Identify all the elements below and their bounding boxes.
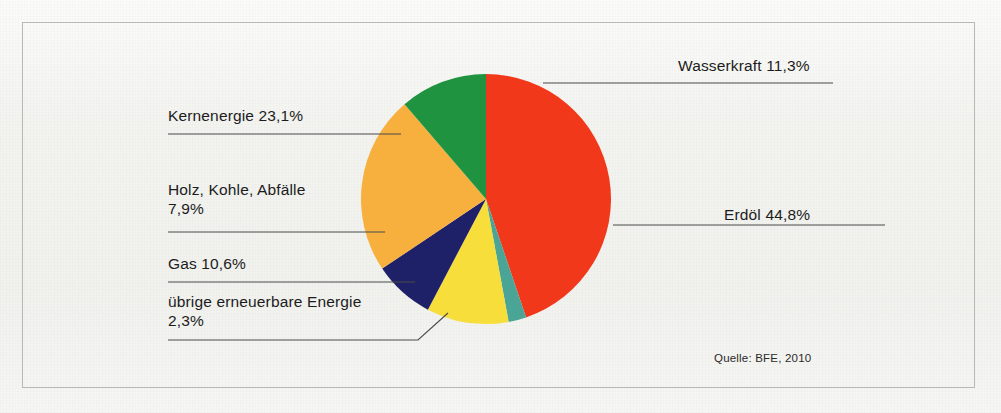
label-uebrige-line2: 2,3% [168, 312, 204, 329]
pie-chart-plot [23, 23, 974, 387]
chart-frame [22, 22, 975, 388]
label-holz-line1: Holz, Kohle, Abfälle [168, 181, 305, 198]
label-uebrige-line1: übrige erneuerbare Energie [168, 293, 361, 310]
label-gas: Gas 10,6% [168, 254, 246, 273]
label-holz-kohle-abfaelle: Holz, Kohle, Abfälle 7,9% [168, 180, 398, 218]
label-erdoel: Erdöl 44,8% [724, 205, 810, 224]
pie-slices [361, 74, 611, 324]
pie-chart-svg [23, 23, 976, 389]
label-holz-line2: 7,9% [168, 200, 204, 217]
label-wasserkraft: Wasserkraft 11,3% [678, 56, 810, 75]
label-kernenergie: Kernenergie 23,1% [168, 106, 303, 125]
label-uebrige-erneuerbare-energie: übrige erneuerbare Energie 2,3% [168, 292, 418, 330]
source-note: Quelle: BFE, 2010 [714, 352, 811, 364]
page-background: Wasserkraft 11,3% Kernenergie 23,1% Holz… [0, 0, 1001, 413]
